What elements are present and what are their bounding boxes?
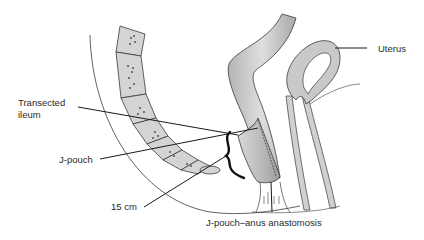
label-j-pouch: J-pouch xyxy=(59,154,93,165)
label-15cm: 15 cm xyxy=(111,201,137,212)
j-pouch-diagram xyxy=(0,0,424,240)
ileum-segments xyxy=(116,26,220,174)
label-anastomosis: J-pouch–anus anastomosis xyxy=(206,217,322,228)
label-uterus: Uterus xyxy=(378,43,406,54)
leader-anastomosis xyxy=(271,182,272,212)
label-transected-ileum-1: Transected xyxy=(18,97,65,108)
label-transected-ileum-2: ileum xyxy=(18,109,41,120)
anal-canal xyxy=(256,182,290,212)
